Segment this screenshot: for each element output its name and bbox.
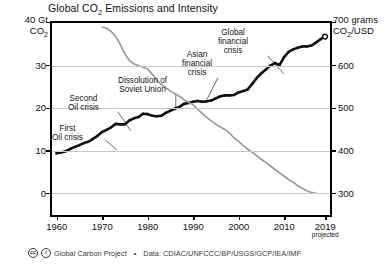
left-axis-tick-mark <box>46 193 51 194</box>
data-point <box>210 99 212 101</box>
x-axis-tick-mark <box>239 216 240 220</box>
annotation-first-oil-crisis-line2: Oil crisis <box>52 133 83 142</box>
data-point <box>183 103 185 105</box>
x-axis-tick-mark <box>148 216 149 220</box>
data-point <box>105 129 107 131</box>
x-axis-tick-mark <box>102 216 103 220</box>
x-axis-tick-label: 1990 <box>183 221 204 232</box>
projected-end-marker <box>323 34 328 39</box>
left-axis-unit-sub: 2 <box>44 30 48 37</box>
data-point <box>228 94 230 96</box>
gridline <box>52 193 330 194</box>
left-axis-unit-line2: CO2 <box>6 26 48 40</box>
left-axis-tick-20: 20 <box>4 102 46 113</box>
chart-title: Global CO2 Emissions and Intensity <box>48 2 218 17</box>
data-point <box>146 113 148 115</box>
data-point <box>96 135 98 137</box>
x-axis-projected-note: projected <box>312 231 339 238</box>
data-point <box>205 100 207 102</box>
footer-separator: • <box>134 249 137 258</box>
data-point <box>219 95 221 97</box>
data-point <box>215 97 217 99</box>
footer-data-source: Data: CDIAC/UNFCCC/BP/USGS/GCP/IEA/IMF <box>143 249 301 258</box>
annotation-asian-crisis: Asianfinancialcrisis <box>182 50 212 77</box>
data-point <box>283 56 285 58</box>
left-axis-tick-mark <box>46 150 51 151</box>
footer-project-name: Global Carbon Project <box>54 249 127 258</box>
x-axis-tick-label: 1980 <box>137 221 158 232</box>
data-point <box>110 126 112 128</box>
data-point <box>315 41 317 43</box>
right-axis-unit-line2: CO2/USD <box>333 26 378 40</box>
right-axis-tick-400: 400 <box>338 145 354 156</box>
data-point <box>114 123 116 125</box>
annotation-second-oil-crisis-line1: Second <box>68 94 99 103</box>
annotation-soviet-union-line1: Dissolution of <box>118 76 167 85</box>
right-axis-tick-mark <box>331 193 336 194</box>
data-point <box>224 94 226 96</box>
x-axis-tick-mark <box>325 216 326 220</box>
annotation-soviet-union: Dissolution ofSoviet Union <box>118 76 167 94</box>
left-axis-tick-mark <box>46 65 51 66</box>
data-point <box>83 142 85 144</box>
left-axis-unit-co: CO <box>30 25 44 36</box>
x-axis-tick-2019: 2019projected <box>312 221 339 238</box>
data-point <box>192 101 194 103</box>
left-axis-top-tick-mark <box>46 22 51 23</box>
data-point <box>165 112 167 114</box>
data-point <box>237 91 239 93</box>
x-axis-tick-1960: 1960 <box>46 221 67 232</box>
annotation-second-oil-crisis: SecondOil crisis <box>68 94 99 112</box>
data-point <box>128 119 130 121</box>
data-point <box>196 100 198 102</box>
data-point <box>233 94 235 96</box>
data-point <box>256 77 258 79</box>
right-axis-unit-co: CO <box>333 25 347 36</box>
right-axis-top-tick-mark <box>331 22 336 23</box>
footer-credit: cc i Global Carbon Project • Data: CDIAC… <box>28 248 301 258</box>
right-axis-tick-mark <box>331 65 336 66</box>
annotation-first-oil-crisis: FirstOil crisis <box>52 124 83 142</box>
data-point <box>137 116 139 118</box>
data-point <box>74 146 76 148</box>
right-axis-tick-mark <box>331 150 336 151</box>
annotation-global-crisis: Globalfinancialcrisis <box>218 28 248 55</box>
right-axis-tick-300: 300 <box>338 188 354 199</box>
x-axis-tick-label: 2010 <box>274 221 295 232</box>
data-point <box>55 152 57 154</box>
chart-title-rest: Emissions and Intensity <box>102 2 218 14</box>
annotation-asian-crisis-line2: financial <box>182 59 212 68</box>
data-point <box>287 51 289 53</box>
x-axis-tick-mark <box>193 216 194 220</box>
data-point <box>78 144 80 146</box>
x-axis-tick-label: 2000 <box>228 221 249 232</box>
data-point <box>160 115 162 117</box>
annotation-leader-first-oil-crisis <box>105 140 117 150</box>
data-point <box>142 112 144 114</box>
chart-figure: Global CO2 Emissions and Intensity 40 Gt… <box>0 0 388 275</box>
left-axis-tick-mark <box>46 108 51 109</box>
data-point <box>246 88 248 90</box>
annotation-first-oil-crisis-line1: First <box>52 124 83 133</box>
data-point <box>87 141 89 143</box>
data-point <box>133 117 135 119</box>
x-axis-tick-label: 1970 <box>92 221 113 232</box>
data-point <box>265 68 267 70</box>
annotation-global-crisis-line1: Global <box>218 28 248 37</box>
data-point <box>101 131 103 133</box>
right-axis-unit-label: 700 grams CO2/USD <box>333 15 378 40</box>
data-point <box>251 83 253 85</box>
data-point <box>306 45 308 47</box>
chart-title-main: Global CO <box>48 2 98 14</box>
data-point <box>119 123 121 125</box>
x-axis-tick-1970: 1970 <box>92 221 113 232</box>
x-axis-tick-mark <box>57 216 58 220</box>
right-axis-unit-rest: /USD <box>351 25 374 36</box>
data-point <box>292 48 294 50</box>
annotation-leader-asian-crisis <box>207 78 218 100</box>
annotation-global-crisis-line3: crisis <box>218 46 248 55</box>
gridline <box>52 151 330 152</box>
left-axis-tick-10: 10 <box>4 145 46 156</box>
left-axis-unit-label: 40 Gt CO2 <box>6 15 48 40</box>
right-axis-tick-mark <box>331 108 336 109</box>
